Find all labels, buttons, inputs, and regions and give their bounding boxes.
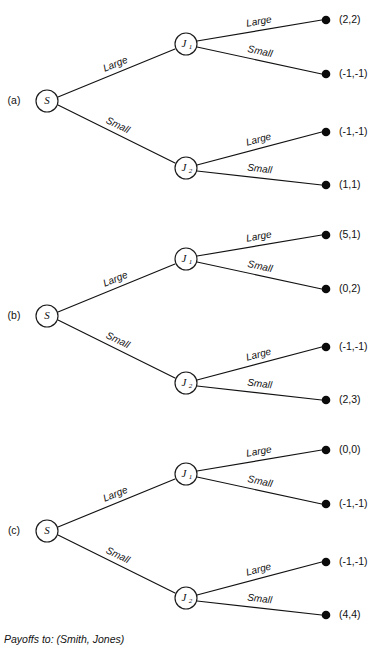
figure-caption: Payoffs to: (Smith, Jones) xyxy=(4,633,124,645)
terminal-node-a-3 xyxy=(322,128,331,137)
branch-s-to-j1 xyxy=(58,264,175,312)
terminal-node-c-4 xyxy=(322,611,331,620)
game-tree-svg: LargeSmallLargeSmallLargeSmallSJ1J2(2,2)… xyxy=(0,0,379,652)
branch-label-s-small: Small xyxy=(104,114,132,135)
branch-s-to-j1 xyxy=(58,479,175,527)
branch-label-j1-small: Small xyxy=(247,473,275,489)
branch-label-j1-small: Small xyxy=(247,258,275,274)
panels-group: LargeSmallLargeSmallLargeSmallSJ1J2(2,2)… xyxy=(8,13,368,620)
branch-label-j1-small: Small xyxy=(247,43,275,59)
node-s-label: S xyxy=(44,524,50,536)
terminal-node-c-2 xyxy=(322,500,331,509)
payoff-label-c-4: (4,4) xyxy=(339,608,361,620)
terminal-node-a-2 xyxy=(322,70,331,79)
branch-label-j1-large: Large xyxy=(245,228,272,243)
branch-label-s-large: Large xyxy=(101,269,129,289)
branch-label-j2-small: Small xyxy=(247,592,274,606)
node-j2-subscript: 2 xyxy=(189,382,193,390)
payoff-label-b-2: (0,2) xyxy=(339,282,361,294)
node-j1-subscript: 1 xyxy=(189,43,193,51)
game-tree-panel-c: LargeSmallLargeSmallLargeSmallSJ1J2(0,0)… xyxy=(8,443,368,620)
panel-label-c: (c) xyxy=(8,524,20,536)
payoff-label-c-2: (-1,-1) xyxy=(339,497,368,509)
panel-label-b: (b) xyxy=(8,309,21,321)
terminal-node-a-1 xyxy=(322,16,331,25)
branch-label-s-small: Small xyxy=(104,544,132,565)
payoff-label-a-3: (-1,-1) xyxy=(339,125,368,137)
node-j2-subscript: 2 xyxy=(189,597,193,605)
payoff-label-b-1: (5,1) xyxy=(339,228,361,240)
branch-label-j1-large: Large xyxy=(245,13,272,28)
branch-s-to-j1 xyxy=(58,49,175,97)
branch-s-to-j2 xyxy=(58,320,175,378)
terminal-node-b-4 xyxy=(322,396,331,405)
game-tree-panel-b: LargeSmallLargeSmallLargeSmallSJ1J2(5,1)… xyxy=(8,228,368,405)
node-j1-subscript: 1 xyxy=(189,258,193,266)
payoff-label-b-3: (-1,-1) xyxy=(339,340,368,352)
branch-label-j2-large: Large xyxy=(245,560,273,577)
branch-label-j2-small: Small xyxy=(247,377,274,391)
terminal-node-c-1 xyxy=(322,446,331,455)
node-j2-subscript: 2 xyxy=(189,167,193,175)
payoff-label-c-3: (-1,-1) xyxy=(339,555,368,567)
payoff-label-b-4: (2,3) xyxy=(339,393,361,405)
payoff-label-a-4: (1,1) xyxy=(339,178,361,190)
branch-label-s-large: Large xyxy=(101,484,129,504)
node-j1-subscript: 1 xyxy=(189,473,193,481)
terminal-node-b-3 xyxy=(322,343,331,352)
game-tree-panel-a: LargeSmallLargeSmallLargeSmallSJ1J2(2,2)… xyxy=(8,13,368,190)
branch-label-s-large: Large xyxy=(101,54,129,74)
game-tree-figure: LargeSmallLargeSmallLargeSmallSJ1J2(2,2)… xyxy=(0,0,379,652)
branch-s-to-j2 xyxy=(58,105,175,163)
payoff-label-c-1: (0,0) xyxy=(339,443,361,455)
payoff-label-a-2: (-1,-1) xyxy=(339,67,368,79)
branch-label-j1-large: Large xyxy=(245,443,272,458)
branch-label-j2-large: Large xyxy=(245,345,273,362)
branch-s-to-j2 xyxy=(58,535,175,593)
terminal-node-b-1 xyxy=(322,231,331,240)
terminal-node-a-4 xyxy=(322,181,331,190)
branch-label-j2-small: Small xyxy=(247,162,274,176)
branch-label-s-small: Small xyxy=(104,329,132,350)
terminal-node-c-3 xyxy=(322,558,331,567)
payoff-label-a-1: (2,2) xyxy=(339,13,361,25)
panel-label-a: (a) xyxy=(8,94,21,106)
branch-label-j2-large: Large xyxy=(245,130,273,147)
terminal-node-b-2 xyxy=(322,285,331,294)
node-s-label: S xyxy=(44,94,50,106)
node-s-label: S xyxy=(44,309,50,321)
